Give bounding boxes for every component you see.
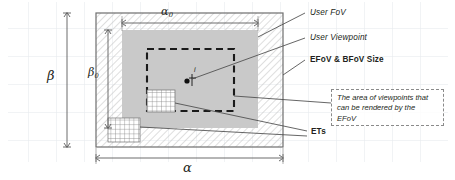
dimension-beta (63, 13, 71, 148)
viewpoint-index-label: i (194, 66, 196, 73)
label-alpha0: α0 (161, 5, 173, 19)
label-beta: β (47, 68, 55, 83)
label-ets: ETs (311, 127, 326, 136)
callout-line-1: The area of viewpoints that (337, 93, 439, 103)
callout-line-3: EFoV (337, 114, 439, 124)
et-grid-block-outer (108, 118, 140, 142)
et-grid-block-inner (147, 90, 175, 112)
label-efov-bfov-size: EFoV & BFoV Size (310, 55, 384, 64)
label-user-viewpoint: User Viewpoint (310, 33, 367, 42)
figure-canvas: α0 β0 β α i User FoV User Viewpoint EFoV… (0, 0, 455, 180)
label-user-fov: User FoV (310, 8, 346, 17)
label-beta0: β0 (88, 66, 99, 80)
label-alpha: α (183, 160, 192, 175)
callout-box: The area of viewpoints that can be rende… (331, 89, 444, 126)
user-fov-region (122, 30, 258, 128)
callout-line-2: can be rendered by the (337, 103, 439, 113)
